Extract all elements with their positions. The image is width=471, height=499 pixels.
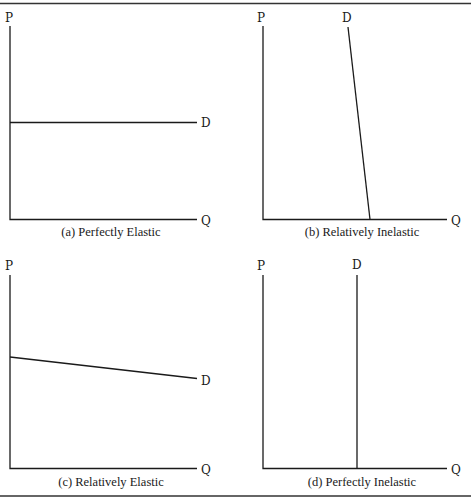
demand-curve <box>10 357 197 379</box>
demand-label: D <box>201 374 211 388</box>
panel-c-relatively-elastic: P D Q (c) Relatively Elastic <box>5 259 211 489</box>
panel-b-relatively-inelastic: P D Q (b) Relatively Inelastic <box>257 11 461 239</box>
axes <box>263 26 447 220</box>
demand-curve <box>348 27 370 220</box>
y-axis-label: P <box>5 11 13 25</box>
panel-caption: (b) Relatively Inelastic <box>305 225 420 239</box>
demand-label: D <box>352 258 362 272</box>
x-axis-label: Q <box>451 463 461 477</box>
x-axis-label: Q <box>201 463 211 477</box>
panel-a-perfectly-elastic: P D Q (a) Perfectly Elastic <box>5 11 211 239</box>
demand-label: D <box>342 11 352 25</box>
panel-caption: (a) Perfectly Elastic <box>61 225 161 239</box>
panel-caption: (d) Perfectly Inelastic <box>308 475 417 489</box>
demand-label: D <box>201 116 211 130</box>
panel-d-perfectly-inelastic: P D Q (d) Perfectly Inelastic <box>257 258 461 489</box>
x-axis-label: Q <box>451 214 461 228</box>
y-axis-label: P <box>257 11 265 25</box>
y-axis-label: P <box>5 259 13 273</box>
axes <box>263 275 447 469</box>
y-axis-label: P <box>257 259 265 273</box>
elasticity-diagram: P D Q (a) Perfectly Elastic P D Q (b) Re… <box>0 0 471 499</box>
panel-caption: (c) Relatively Elastic <box>58 475 164 489</box>
axes <box>10 275 197 469</box>
x-axis-label: Q <box>201 214 211 228</box>
